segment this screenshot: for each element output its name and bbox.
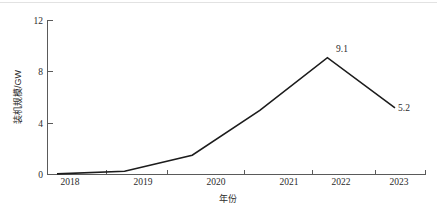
data-label-peak: 9.1	[336, 44, 348, 54]
line-chart-canvas: 0 4 8 12 2018 2019 2020 2021 2022 2023 年…	[0, 0, 437, 211]
x-axis-title: 年份	[219, 193, 237, 204]
y-axis-ticks	[48, 21, 53, 175]
x-axis-ticks	[107, 170, 426, 175]
y-tick-label-12: 12	[34, 16, 44, 26]
x-tick-label-2019: 2019	[134, 177, 153, 187]
chart-figure: 0 4 8 12 2018 2019 2020 2021 2022 2023 年…	[0, 0, 437, 211]
x-tick-label-2020: 2020	[207, 177, 226, 187]
x-tick-label-2022: 2022	[332, 177, 351, 187]
x-tick-label-2021: 2021	[280, 177, 299, 187]
x-tick-label-2018: 2018	[61, 177, 80, 187]
data-label-end: 5.2	[398, 103, 410, 113]
x-tick-label-2023: 2023	[390, 177, 409, 187]
y-tick-label-8: 8	[38, 67, 43, 77]
y-axis-title: 装机规模/GW	[12, 69, 23, 124]
series-line-installed-capacity	[57, 58, 395, 174]
y-tick-label-0: 0	[38, 170, 43, 180]
y-tick-label-4: 4	[38, 119, 43, 129]
